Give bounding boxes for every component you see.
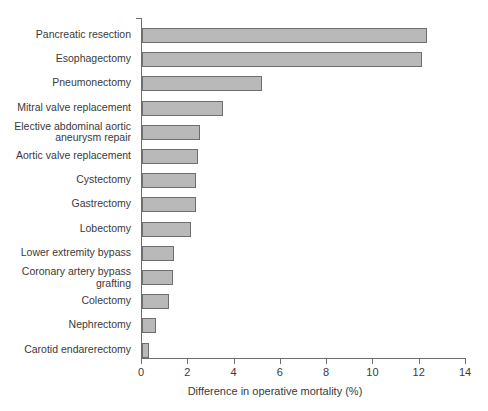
category-label: Pancreatic resection <box>0 29 131 41</box>
x-axis-tick-label: 2 <box>167 366 207 378</box>
bar <box>142 76 262 91</box>
x-axis-tick-label: 6 <box>260 366 300 378</box>
x-axis-tick-label: 4 <box>214 366 254 378</box>
bar <box>142 101 223 116</box>
x-axis-title-text: Difference in operative mortality (%) <box>188 385 363 397</box>
bar-row: Elective abdominal aortic aneurysm repai… <box>0 124 488 148</box>
bar-row: Coronary artery bypass grafting <box>0 269 488 293</box>
x-axis-tick <box>187 358 188 364</box>
bar <box>142 270 173 285</box>
x-axis-tick <box>280 358 281 364</box>
category-label: Coronary artery bypass grafting <box>0 266 131 289</box>
bar <box>142 343 149 358</box>
x-axis-tick <box>419 358 420 364</box>
category-label: Mitral valve replacement <box>0 102 131 114</box>
bar-row: Lobectomy <box>0 221 488 245</box>
bar <box>142 149 198 164</box>
bar <box>142 197 196 212</box>
bar <box>142 294 169 309</box>
category-label: Aortic valve replacement <box>0 150 131 162</box>
x-axis-tick <box>372 358 373 364</box>
bar <box>142 173 196 188</box>
category-label: Lower extremity bypass <box>0 247 131 259</box>
x-axis-title: Difference in operative mortality (%) <box>0 385 488 397</box>
category-label: Nephrectomy <box>0 319 131 331</box>
bar-row: Gastrectomy <box>0 196 488 220</box>
bar <box>142 222 191 237</box>
x-axis-tick-label: 10 <box>352 366 392 378</box>
bar-row: Aortic valve replacement <box>0 148 488 172</box>
bar <box>142 318 156 333</box>
bar-row: Cystectomy <box>0 172 488 196</box>
category-label: Carotid endarerectomy <box>0 344 131 356</box>
x-axis-tick <box>141 358 142 364</box>
category-label: Pneumonectomy <box>0 77 131 89</box>
x-axis-tick <box>326 358 327 364</box>
category-label: Lobectomy <box>0 223 131 235</box>
category-label: Elective abdominal aortic aneurysm repai… <box>0 121 131 144</box>
category-label: Gastrectomy <box>0 198 131 210</box>
bar-row: Pancreatic resection <box>0 27 488 51</box>
bar <box>142 246 174 261</box>
bar <box>142 28 427 43</box>
bar <box>142 125 200 140</box>
bar-row: Carotid endarerectomy <box>0 342 488 366</box>
x-axis-tick-label: 14 <box>445 366 485 378</box>
category-label: Esophagectomy <box>0 53 131 65</box>
horizontal-bar-chart: Pancreatic resectionEsophagectomyPneumon… <box>0 0 488 411</box>
x-axis-tick-label: 0 <box>121 366 161 378</box>
bar-row: Esophagectomy <box>0 51 488 75</box>
x-axis-tick <box>234 358 235 364</box>
category-label: Cystectomy <box>0 174 131 186</box>
bar-row: Pneumonectomy <box>0 75 488 99</box>
x-axis-tick-label: 8 <box>306 366 346 378</box>
bar <box>142 52 422 67</box>
x-axis-tick <box>465 358 466 364</box>
bar-row: Nephrectomy <box>0 317 488 341</box>
category-label: Colectomy <box>0 295 131 307</box>
x-axis-tick-label: 12 <box>399 366 439 378</box>
bar-row: Colectomy <box>0 293 488 317</box>
